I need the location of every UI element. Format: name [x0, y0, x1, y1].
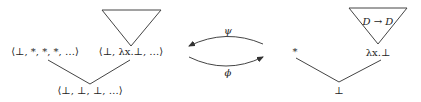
right-node-bottom: ⊥: [334, 85, 343, 96]
left-edge-bottom-to-topleft: [48, 60, 90, 84]
left-function-triangle: [102, 10, 161, 46]
right-node-top-right: λx.⊥: [366, 47, 391, 58]
left-domain: ⟨⊥, *, *, *, …⟩ ⟨⊥, λx.⊥, …⟩ ⟨⊥, ⊥, ⊥, ……: [11, 10, 163, 96]
left-node-bottom: ⟨⊥, ⊥, ⊥, …⟩: [57, 85, 122, 96]
phi-label: ϕ: [225, 67, 232, 78]
psi-arrow: [189, 36, 263, 46]
right-domain: D → D * λx.⊥ ⊥: [293, 8, 408, 96]
left-node-top-right: ⟨⊥, λx.⊥, …⟩: [99, 46, 164, 57]
right-triangle-label: D → D: [362, 16, 394, 27]
right-node-top-left: *: [293, 46, 298, 57]
mapping-arrows: ψ ϕ: [189, 25, 263, 78]
domain-diagram: ⟨⊥, *, *, *, …⟩ ⟨⊥, λx.⊥, …⟩ ⟨⊥, ⊥, ⊥, ……: [0, 0, 421, 102]
right-edge-bottom-to-topleft: [296, 58, 339, 82]
phi-arrow: [189, 57, 263, 66]
left-node-top-left: ⟨⊥, *, *, *, …⟩: [11, 46, 79, 57]
left-edge-bottom-to-topright: [90, 60, 130, 84]
right-edge-bottom-to-topright: [339, 60, 381, 82]
psi-label: ψ: [224, 25, 232, 36]
